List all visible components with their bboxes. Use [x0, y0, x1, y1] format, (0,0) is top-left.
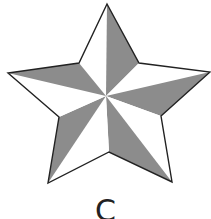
star-icon [0, 0, 211, 219]
star-facets [8, 4, 210, 183]
figure-label: C [0, 196, 211, 219]
